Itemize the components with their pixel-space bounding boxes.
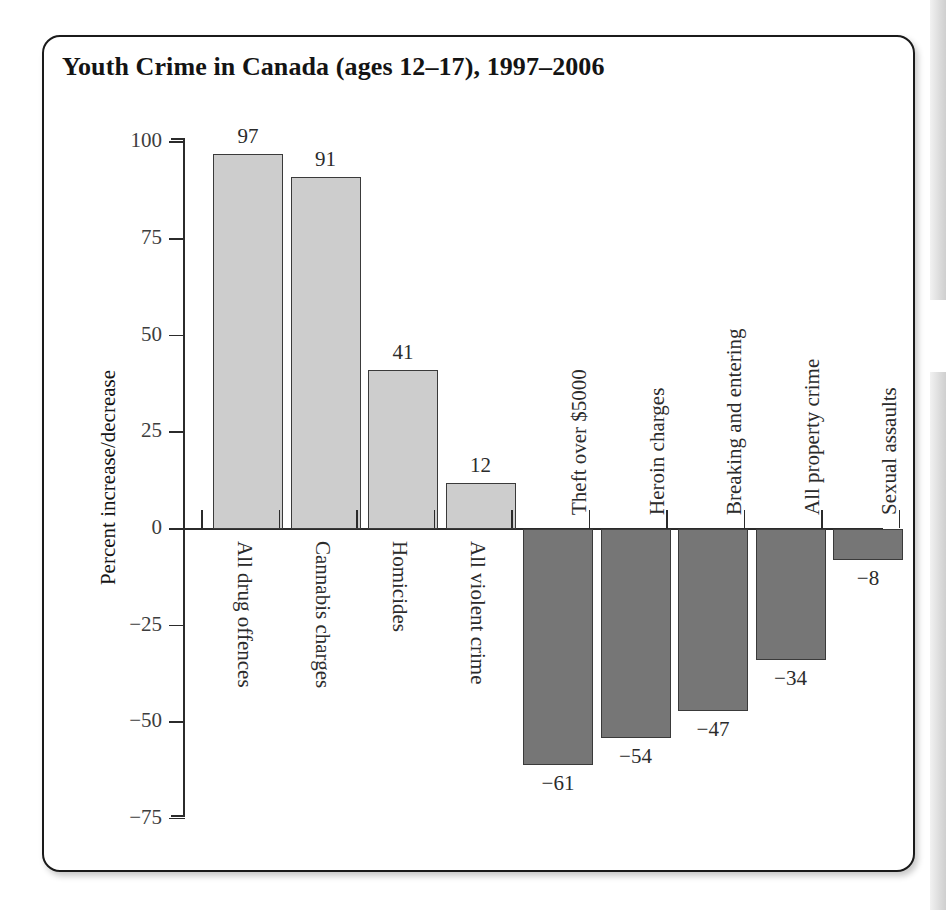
page-edge-notch [928,300,946,372]
chart-title: Youth Crime in Canada (ages 12–17), 1997… [62,52,605,82]
figure-frame [42,35,915,872]
page-edge-decoration [930,0,946,910]
